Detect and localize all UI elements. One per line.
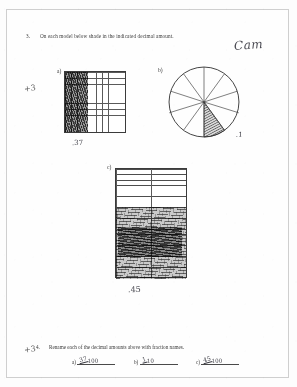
answer-slot-label-b: b) [134, 359, 138, 365]
answer-handwritten-a: .37 [72, 139, 83, 147]
part-label-a: a) [57, 68, 61, 74]
answer-rule-a: 37100 [77, 355, 115, 365]
answer-slot-label-c: c) [196, 359, 200, 365]
answer-slot-a: a) 37100 [72, 355, 115, 365]
question-3-prompt: 3.On each model below shade in the indic… [26, 33, 256, 39]
student-name-handwriting: Cam [234, 37, 264, 53]
teacher-mark-top: +3 [23, 83, 36, 94]
answer-handwritten-b: .1 [236, 131, 243, 140]
fraction-denominator-c: 100 [212, 359, 223, 365]
worksheet-page: Cam +3 +3 3.On each model below shade in… [0, 0, 297, 387]
question-3-number: 3. [26, 33, 40, 39]
fraction-handwritten-b: 110 [141, 357, 153, 365]
answer-rule-c: 45100 [201, 355, 239, 365]
part-label-b: b) [158, 67, 163, 73]
pencil-shading-c-dark [118, 227, 182, 257]
question-4-text: Rename each of the decimal amounts above… [49, 344, 184, 350]
answer-slot-label-a: a) [72, 359, 76, 365]
answer-slot-c: c) 45100 [196, 355, 239, 365]
question-4-number: 4. [36, 344, 49, 350]
question-4-prompt: 4.Rename each of the decimal amounts abo… [36, 344, 261, 350]
fraction-denominator-b: 10 [146, 359, 153, 365]
decimal-model-grid-a [64, 71, 126, 133]
fraction-handwritten-a: 37100 [79, 357, 98, 365]
pencil-shading-a [65, 72, 88, 132]
decimal-model-circle-b [166, 64, 242, 140]
fraction-denominator-a: 100 [88, 359, 99, 365]
answer-rule-b: 110 [140, 355, 178, 365]
part-label-c: c) [107, 164, 111, 170]
teacher-mark-bottom: +3 [23, 344, 36, 355]
decimal-model-grid-c [115, 168, 187, 278]
question-3-text: On each model below shade in the indicat… [40, 33, 174, 39]
answer-slot-b: b) 110 [134, 355, 178, 365]
answer-handwritten-c: .45 [128, 285, 141, 294]
sector-divider-lines [169, 67, 238, 137]
fraction-handwritten-c: 45100 [203, 357, 222, 365]
